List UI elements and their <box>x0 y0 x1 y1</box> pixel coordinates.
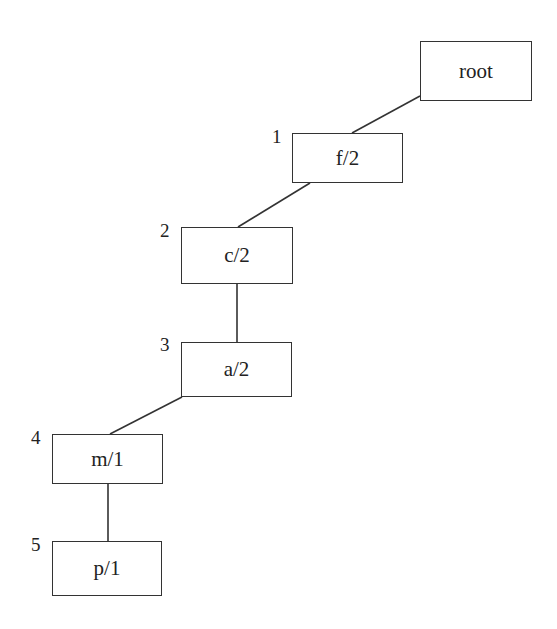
edge-f-c <box>238 183 310 227</box>
index-label-3: 3 <box>160 334 170 356</box>
node-a: a/2 <box>181 342 292 397</box>
node-m: m/1 <box>52 434 163 484</box>
index-label-1: 1 <box>272 126 282 148</box>
node-f: f/2 <box>292 133 403 183</box>
node-c: c/2 <box>181 227 293 284</box>
index-label-4: 4 <box>31 427 41 449</box>
index-label-2: 2 <box>160 220 170 242</box>
edge-a-m <box>110 397 182 434</box>
index-label-5: 5 <box>31 534 41 556</box>
node-p: p/1 <box>52 541 162 596</box>
edge-root-f <box>352 96 420 133</box>
node-root: root <box>420 41 532 101</box>
